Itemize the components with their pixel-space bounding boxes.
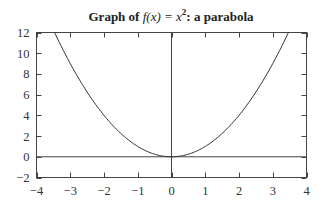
plot-area [37, 0, 307, 177]
x-tick-label: −4 [30, 184, 44, 198]
parabola-chart: Graph of f(x) = x2: a parabola −4−3−2−10… [0, 0, 322, 209]
y-tick-label: 0 [23, 150, 29, 164]
x-tick-label: 2 [236, 184, 242, 198]
x-tick-label: −1 [131, 184, 144, 198]
x-tick-label: 3 [270, 184, 276, 198]
y-tick-label: 4 [23, 109, 30, 123]
x-tick-label: 4 [303, 184, 310, 198]
x-tick-label: −3 [64, 184, 77, 198]
y-tick-label: 6 [23, 88, 29, 102]
y-tick-label: −2 [16, 171, 29, 185]
y-tick-label: 8 [23, 67, 29, 81]
x-tick-label: −2 [97, 184, 110, 198]
y-tick-label: 12 [17, 26, 30, 40]
tick-labels: −4−3−2−101234−2024681012 [16, 26, 310, 198]
chart-title: Graph of f(x) = x2: a parabola [89, 7, 254, 24]
x-tick-label: 1 [202, 184, 208, 198]
x-tick-label: 0 [168, 184, 174, 198]
y-tick-label: 10 [17, 47, 30, 61]
y-tick-label: 2 [23, 130, 29, 144]
